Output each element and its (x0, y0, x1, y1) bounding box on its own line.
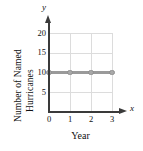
data-point-marker (67, 70, 72, 75)
y-axis-title-line-1: Number of Named (13, 49, 23, 122)
x-axis-line (48, 111, 120, 113)
y-axis-tick-label: 10 (32, 68, 46, 77)
x-axis-tick-label: 2 (84, 115, 98, 124)
x-axis-tick-label: 1 (63, 115, 77, 124)
x-axis-tick-label: 0 (42, 115, 56, 124)
x-axis-arrow-icon (119, 108, 127, 114)
hurricanes-line-chart: Number of Named Hurricanes 5101520 y x 0… (0, 0, 143, 151)
x-axis-tick-labels: 0123 (0, 115, 143, 127)
gridline-horizontal (49, 33, 112, 34)
y-axis-tick-label: 20 (32, 29, 46, 38)
y-axis-tick-label: 5 (32, 88, 46, 97)
x-axis-variable-label: x (130, 103, 134, 113)
plot-area (49, 33, 112, 112)
y-axis-tick-labels: 5101520 (30, 0, 46, 130)
data-point-marker (88, 70, 93, 75)
data-point-marker (109, 70, 114, 75)
gridline-horizontal (49, 92, 112, 93)
y-axis-arrow-icon (45, 15, 51, 23)
y-axis-title: Number of Named Hurricanes (0, 0, 34, 130)
gridline-horizontal (49, 53, 112, 54)
x-axis-title: Year (49, 130, 112, 141)
y-axis-line (48, 22, 50, 112)
x-axis-tick-label: 3 (105, 115, 119, 124)
y-axis-variable-label: y (42, 2, 46, 12)
y-axis-tick-label: 15 (32, 48, 46, 57)
